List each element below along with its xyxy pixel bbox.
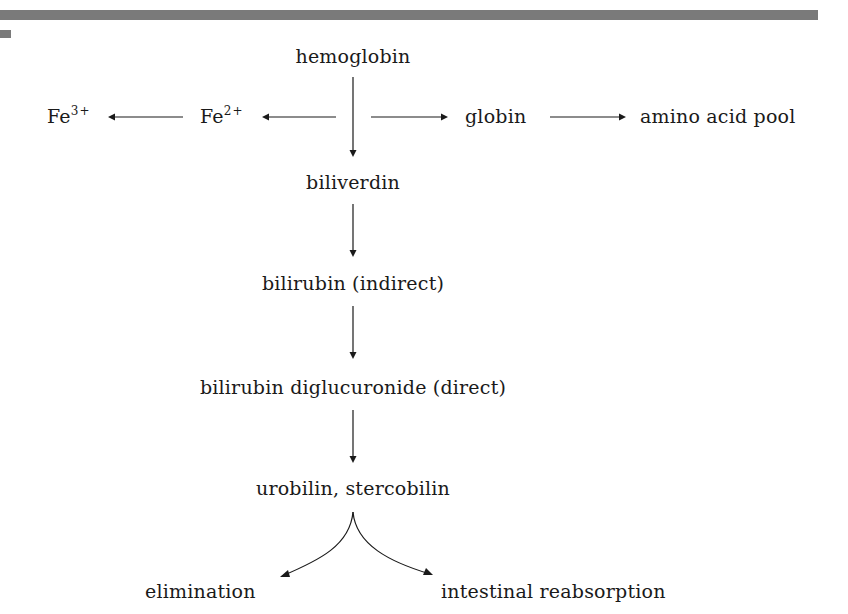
fe3-symbol: Fe: [47, 105, 71, 127]
node-bilirubin-indirect: bilirubin (indirect): [262, 274, 444, 293]
arrow-globin-to-amino-acid-pool: [550, 114, 626, 121]
node-fe2: Fe2+: [200, 107, 244, 126]
arrow-fe2-to-fe3: [108, 114, 183, 121]
node-urobilin-stercobilin: urobilin, stercobilin: [256, 479, 450, 498]
arrow-hemoglobin-to-globin: [371, 114, 448, 121]
node-hemoglobin: hemoglobin: [295, 47, 410, 66]
arrow-urobilin-to-intestinal-reabsorption: [353, 512, 433, 575]
arrow-hemoglobin-to-biliverdin: [350, 77, 357, 157]
node-fe3: Fe3+: [47, 107, 91, 126]
arrow-urobilin-to-elimination: [280, 512, 353, 577]
arrow-hemoglobin-to-fe2: [262, 114, 336, 121]
arrow-bilirubin-to-diglucuronide: [350, 306, 357, 359]
node-elimination: elimination: [145, 582, 256, 601]
arrow-diglucuronide-to-urobilin: [350, 410, 357, 463]
node-globin: globin: [465, 107, 526, 126]
node-intestinal-reabsorption: intestinal reabsorption: [441, 582, 666, 601]
fe2-symbol: Fe: [200, 105, 224, 127]
node-bilirubin-diglucuronide: bilirubin diglucuronide (direct): [200, 378, 506, 397]
node-biliverdin: biliverdin: [306, 173, 400, 192]
arrow-biliverdin-to-bilirubin: [350, 204, 357, 257]
fe3-charge: 3+: [71, 104, 91, 118]
node-amino-acid-pool: amino acid pool: [640, 107, 796, 126]
fe2-charge: 2+: [224, 104, 244, 118]
pathway-arrows: [0, 0, 848, 614]
